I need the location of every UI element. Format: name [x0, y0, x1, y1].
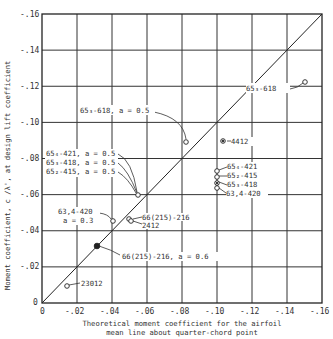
label-4412: 4412 — [231, 137, 248, 146]
y-tick: -.16 — [20, 10, 39, 19]
y-tick: 0 — [33, 298, 38, 307]
point-23012 — [65, 284, 70, 289]
label-66215-216-a06: 66(215)-216, a = 0.6 — [122, 252, 209, 261]
label-634-420-a03-line1: 63,4-420 — [58, 207, 93, 216]
x-tick: -.02 — [65, 307, 84, 316]
y-tick: -.06 — [20, 190, 39, 199]
point-66215-216-a06 — [94, 243, 100, 249]
x-tick: -.10 — [205, 307, 224, 316]
y-tick: -.10 — [20, 118, 39, 127]
label-653-618: 65₃-618 — [246, 84, 276, 93]
label-654-421-a05: 65₄-421, a = 0.5 — [46, 149, 115, 158]
label-652-415-a05: 65₂-415, a = 0.5 — [46, 167, 115, 176]
point-652-415 — [215, 175, 220, 180]
label-634-420: 63,4-420 — [226, 189, 261, 198]
label-652-415: 65₂-415 — [227, 171, 257, 180]
point-labels: 65₃-618 65₃-618, a = 0.5 4412 65₄-421 65… — [45, 83, 290, 288]
x-tick: -.06 — [135, 307, 154, 316]
point-65x-a05 — [136, 193, 141, 198]
label-654-421: 65₄-421 — [227, 162, 257, 171]
label-2412: 2412 — [142, 221, 159, 230]
point-653-618-a05 — [184, 140, 189, 145]
point-2412 — [129, 219, 134, 224]
x-tick: -.12 — [240, 307, 259, 316]
point-634-420-a03 — [111, 219, 116, 224]
x-tick: -.04 — [100, 307, 119, 316]
x-tick: -.08 — [170, 307, 189, 316]
x-axis-title-line1: Theoretical moment coefficient for the a… — [82, 319, 281, 328]
point-634-420 — [215, 186, 220, 191]
chart: 0 -.02 -.04 -.06 -.08 -.10 -.12 -.14 -.1… — [0, 0, 333, 339]
label-23012: 23012 — [81, 279, 103, 288]
x-tick: -.14 — [275, 307, 294, 316]
x-tick: 0 — [40, 307, 45, 316]
label-634-420-a03-line2: a = 0.3 — [63, 216, 93, 225]
y-tick: -.02 — [20, 262, 39, 271]
y-tick-labels: 0 -.02 -.04 -.06 -.08 -.10 -.12 -.14 -.1… — [20, 10, 39, 307]
y-tick: -.12 — [20, 82, 39, 91]
point-653-618 — [303, 80, 308, 85]
label-653-618-a05: 65₃-618, a = 0.5 — [80, 106, 149, 115]
point-4412-dot — [222, 140, 224, 142]
y-tick: -.08 — [20, 154, 39, 163]
y-tick: -.14 — [20, 46, 39, 55]
x-axis-title-line2: mean line about quarter-chord point — [106, 328, 257, 337]
y-tick: -.04 — [20, 226, 39, 235]
label-653-418: 65₃-418 — [227, 180, 257, 189]
label-653-418-a05: 65₃-418, a = 0.5 — [46, 158, 115, 167]
x-tick: -.16 — [310, 307, 329, 316]
point-654-421 — [215, 169, 220, 174]
y-axis-title: Moment coefficient, c /λ', at design lif… — [3, 61, 12, 290]
x-tick-labels: 0 -.02 -.04 -.06 -.08 -.10 -.12 -.14 -.1… — [40, 307, 329, 316]
